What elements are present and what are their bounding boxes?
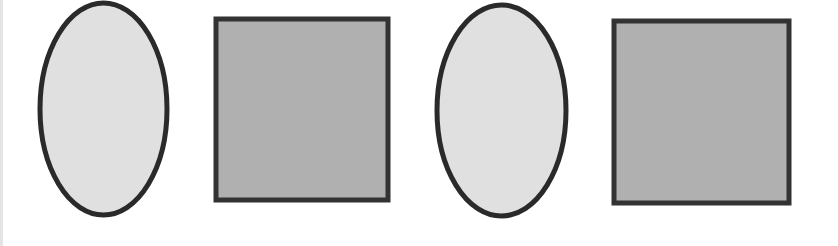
square-shape-2 — [614, 21, 789, 203]
ellipse-shape-1 — [40, 3, 167, 215]
square-shape-1 — [216, 19, 388, 200]
ellipse-shape-2 — [437, 5, 566, 216]
shapes-diagram — [0, 0, 838, 246]
